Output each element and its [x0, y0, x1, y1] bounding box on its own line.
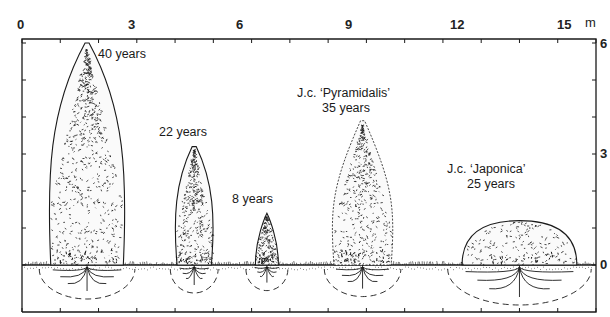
label-pyramidalis-name: J.c. ‘Pyramidalis’ — [297, 86, 390, 100]
soil-texture — [24, 267, 592, 270]
top-axis-label-12: 12 — [450, 17, 464, 32]
top-axis-label-0: 0 — [17, 17, 24, 32]
diagram-artwork — [0, 0, 610, 317]
right-axis-label-3: 3 — [600, 146, 607, 161]
tree-8-roots — [255, 265, 280, 283]
tree-japonica-roots — [466, 265, 574, 297]
tree-growth-diagram: 0 3 6 9 12 15 m 6 3 0 40 years 22 years … — [0, 0, 610, 317]
label-8-years: 8 years — [232, 192, 273, 206]
label-40-years: 40 years — [98, 47, 146, 61]
top-axis-label-15: 15 — [557, 17, 571, 32]
label-22-years: 22 years — [159, 125, 207, 139]
top-axis-label-9: 9 — [345, 17, 352, 32]
label-japonica-name: J.c. ‘Japonica’ — [447, 162, 526, 176]
top-axis-label-6: 6 — [236, 17, 243, 32]
label-japonica-age: 25 years — [467, 177, 515, 191]
tree-22-roots — [180, 265, 209, 285]
tree-pyramidalis-roots — [336, 265, 389, 289]
label-pyramidalis-age: 35 years — [322, 101, 370, 115]
top-axis-label-3: 3 — [128, 17, 135, 32]
axis-unit-label: m — [585, 15, 596, 30]
tree-pyramidalis-crown-outline — [332, 121, 392, 265]
tree-japonica-crown-outline — [462, 221, 577, 265]
right-axis-label-0: 0 — [600, 257, 607, 272]
right-axis-label-6: 6 — [600, 36, 607, 51]
